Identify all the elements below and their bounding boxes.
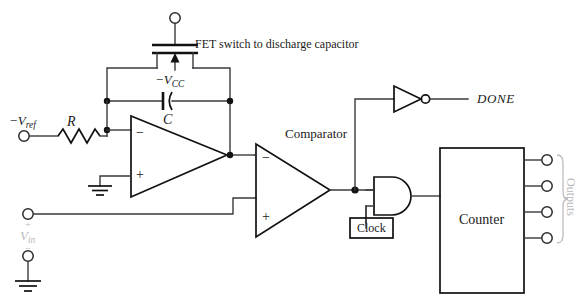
output-terminal-1[interactable] (542, 155, 552, 165)
fet-drain-terminal[interactable] (170, 13, 180, 23)
comparator-noninverting-label: + (262, 209, 270, 225)
resistor-label: R (67, 114, 76, 130)
output-terminal-2[interactable] (542, 181, 552, 191)
inverter-symbol (394, 86, 468, 112)
vin-plus-sign: + (25, 219, 31, 230)
done-label: DONE (477, 91, 515, 107)
comparator-label: Comparator (285, 126, 347, 142)
output-terminal-4[interactable] (542, 233, 552, 243)
opamp-inverting-label: − (136, 125, 144, 141)
clock-label: Clock (357, 221, 386, 236)
junction-dot (227, 152, 233, 158)
vref-label: −Vref (9, 113, 36, 130)
circuit-diagram-canvas: .w { stroke: #3a3a3f; stroke-width: 1.4;… (0, 0, 588, 304)
vin-plus-terminal[interactable] (23, 209, 33, 219)
vcc-label: −VCC (155, 72, 184, 89)
opamp-noninverting-label: + (136, 167, 144, 183)
vin-source-branch (15, 198, 256, 291)
capacitor-label: C (163, 112, 172, 128)
outputs-label: Outputs (563, 178, 578, 216)
vin-minus-sign: − (25, 243, 31, 254)
comparator-symbol (255, 99, 394, 237)
junction-dot (227, 98, 233, 104)
output-terminal-3[interactable] (542, 207, 552, 217)
comparator-inverting-label: − (262, 150, 270, 166)
fet-switch-note: FET switch to discharge capacitor (195, 37, 359, 52)
counter-label: Counter (459, 212, 504, 228)
vref-terminal[interactable] (19, 131, 29, 141)
